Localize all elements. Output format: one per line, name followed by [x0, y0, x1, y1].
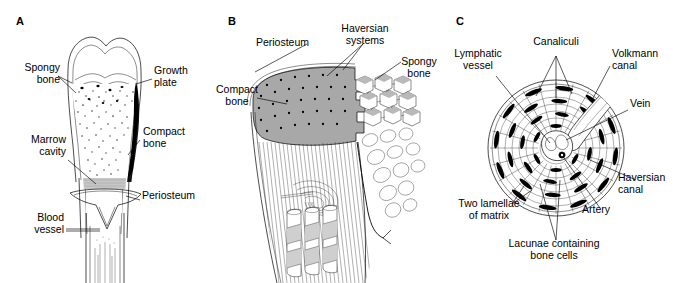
label-canaliculi: Canaliculi [518, 36, 594, 48]
label-haversian-canal: Haversian canal [618, 172, 673, 195]
label-two-lamellae: Two lamellae of matrix [442, 198, 536, 221]
label-lacunae: Lacunae containing bone cells [488, 238, 620, 261]
label-artery: Artery [582, 204, 634, 216]
label-haversian-systems: Haversian systems [331, 23, 399, 46]
label-periosteum-a: Periosteum [142, 190, 214, 202]
label-growth-plate: Growth plate [154, 65, 216, 88]
label-compact-bone-b: Compact bone [209, 84, 265, 107]
panel-a-long-bone: A [0, 0, 224, 283]
label-volkmann-canal: Volkmann canal [612, 48, 673, 71]
label-blood-vessel: Blood vessel [4, 212, 64, 235]
label-compact-bone-a: Compact bone [143, 126, 205, 149]
panel-b-bone-cutaway: B [215, 0, 447, 283]
label-periosteum-b: Periosteum [233, 37, 309, 49]
label-spongy-bone-b: Spongy bone [393, 56, 445, 79]
label-vein: Vein [630, 98, 670, 110]
panel-c-haversian-system: C [440, 0, 673, 283]
label-spongy-bone-a: Spongy bone [2, 62, 60, 85]
label-lymphatic-vessel: Lymphatic vessel [444, 48, 512, 71]
bone-structure-figure: A [0, 0, 673, 283]
label-marrow-cavity: Marrow cavity [6, 134, 66, 157]
